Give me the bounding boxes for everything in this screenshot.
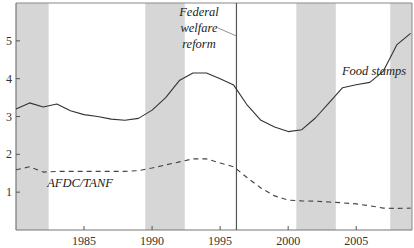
y-tick-label: 2 xyxy=(6,147,12,161)
reform-label: welfare xyxy=(180,21,217,35)
welfare-reform-marker: Federalwelfarereform xyxy=(178,3,236,230)
reform-leader-line xyxy=(218,28,236,36)
y-tick-label: 5 xyxy=(6,34,12,48)
food-stamps-label: Food stamps xyxy=(341,64,406,78)
recession-band xyxy=(145,3,184,230)
x-tick-label: 2005 xyxy=(344,234,368,248)
x-tick-label: 1995 xyxy=(208,234,232,248)
x-tick-label: 1985 xyxy=(72,234,96,248)
reform-label: Federal xyxy=(178,5,219,19)
x-tick-label: 1990 xyxy=(140,234,164,248)
chart-figure: 12345 19851990199520002005 Federalwelfar… xyxy=(0,0,414,248)
reform-label: reform xyxy=(182,37,216,51)
y-tick-label: 4 xyxy=(6,72,12,86)
recession-band xyxy=(390,3,412,230)
x-tick-label: 2000 xyxy=(276,234,300,248)
y-tick-label: 1 xyxy=(6,185,12,199)
recession-band xyxy=(16,3,49,230)
afdc-tanf-label: AFDC/TANF xyxy=(46,176,113,190)
y-tick-label: 3 xyxy=(6,110,12,124)
